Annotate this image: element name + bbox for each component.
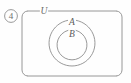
set-a-label: A [68,17,75,27]
set-b-label: B [69,29,75,39]
universe-border-corner-top-right [116,11,122,17]
universe-border-corner-bottom-left [22,70,28,76]
set-a-group: A [49,17,95,66]
set-b-group: B [57,29,87,60]
figure-canvas: 4 U A B [0,0,131,83]
item-number-label: 4 [9,11,14,21]
universe-border-corner-bottom-right [116,70,122,76]
item-number-marker: 4 [5,10,18,23]
set-a-circle-arc [49,20,95,66]
universe-border-corner-top-left [22,11,28,17]
set-diagram-svg: 4 U A B [0,0,131,83]
universal-set-label: U [41,6,49,16]
